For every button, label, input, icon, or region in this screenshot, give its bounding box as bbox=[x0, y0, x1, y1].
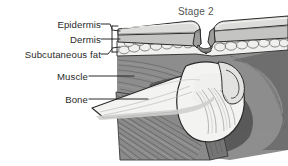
label-muscle: Muscle bbox=[0, 71, 88, 82]
label-epidermis: Epidermis bbox=[0, 19, 101, 30]
label-bone: Bone bbox=[0, 94, 88, 105]
figure-canvas: Stage 2 Epidermis Dermis Subcutaneous fa… bbox=[0, 0, 288, 166]
subcutaneous-fat-leader bbox=[101, 49, 112, 54]
epidermis-leader bbox=[101, 24, 112, 29]
figure-title: Stage 2 bbox=[178, 6, 214, 17]
label-subcutaneous-fat: Subcutaneous fat bbox=[0, 49, 101, 60]
label-dermis: Dermis bbox=[0, 34, 101, 45]
